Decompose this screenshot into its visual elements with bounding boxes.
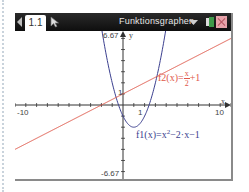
dropdown-triangle-icon[interactable] <box>189 20 198 25</box>
x-axis-label: x <box>221 97 225 106</box>
f2-rest: +1 <box>190 72 201 83</box>
document-title[interactable]: Funktionsgraphen <box>119 16 194 26</box>
x-max-label: 10 <box>215 108 224 117</box>
pointer-cursor-icon <box>50 16 60 28</box>
tab-1-1[interactable]: 1.1 <box>25 15 46 31</box>
y-min-label: -6.67 <box>101 169 119 178</box>
f1-rest: −2·x−1 <box>170 129 200 140</box>
y-axis-label: y <box>129 31 133 40</box>
y-max-label: 6.67 <box>103 31 119 40</box>
f1-arg: (x) <box>144 129 156 140</box>
x-min-label: -10 <box>17 108 29 117</box>
f1-equals: =x <box>156 129 167 140</box>
y-axis-arrow-icon <box>120 31 126 37</box>
f1-function-label[interactable]: f1(x)=x2−2·x−1 <box>136 128 200 140</box>
triangle-left-icon[interactable] <box>17 17 22 27</box>
x-axis-arrow-icon <box>225 102 231 108</box>
calculator-screen: 1.1 Funktionsgraphen 6.67 y -6.67 -10 10… <box>15 13 233 181</box>
y-one-label: 1 <box>118 88 122 97</box>
f2-function-label[interactable]: f2(x)=x2+1 <box>158 69 200 88</box>
f2-arg: (x) <box>166 72 178 83</box>
graph-plot[interactable] <box>15 31 231 179</box>
battery-icon <box>205 16 215 28</box>
graph-area[interactable]: 6.67 y -6.67 -10 10 x 1 1 f2(x)=x2+1 f1(… <box>15 31 231 183</box>
x-one-label: 1 <box>138 108 142 117</box>
close-icon[interactable] <box>216 16 227 28</box>
title-bar: 1.1 Funktionsgraphen <box>15 13 231 31</box>
page-edge-dotted-line <box>2 0 4 192</box>
